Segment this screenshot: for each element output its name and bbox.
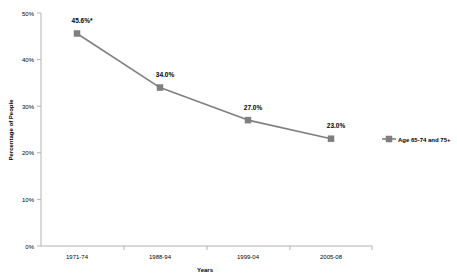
x-tick-label-1988-94: 1988-94 <box>149 254 172 260</box>
x-tick-label-2005-08: 2005-08 <box>320 254 343 260</box>
data-point-1999-04 <box>245 117 251 123</box>
data-label-1988-94: 34.0% <box>156 71 175 78</box>
y-tick-label-40: 40% <box>22 57 35 63</box>
y-tick-label-20: 20% <box>22 150 35 156</box>
data-label-2005-08: 23.0% <box>327 122 346 129</box>
data-label-1971-74: 45.6%* <box>72 17 93 24</box>
data-point-2005-08 <box>328 136 334 142</box>
legend-label-age-65-74-and-75plus: Age 65-74 and 75+ <box>398 137 451 143</box>
y-tick-label-10: 10% <box>22 197 35 203</box>
data-label-1999-04: 27.0% <box>244 104 263 111</box>
line-chart: 50% 40% 30% 20% 10% 0% 1971-74 1988-94 1… <box>0 0 457 279</box>
data-point-1988-94 <box>157 85 163 91</box>
y-tick-label-0: 0% <box>25 244 34 250</box>
chart-canvas: 50% 40% 30% 20% 10% 0% 1971-74 1988-94 1… <box>0 0 457 279</box>
y-axis-title: Percentage of People <box>8 99 14 161</box>
y-tick-label-30: 30% <box>22 104 35 110</box>
x-tick-label-1971-74: 1971-74 <box>66 254 89 260</box>
y-tick-label-50: 50% <box>22 11 35 17</box>
x-tick-label-1999-04: 1999-04 <box>237 254 260 260</box>
data-point-1971-74 <box>74 31 80 37</box>
x-axis-title: Years <box>197 267 214 273</box>
legend-marker-icon <box>386 136 392 142</box>
